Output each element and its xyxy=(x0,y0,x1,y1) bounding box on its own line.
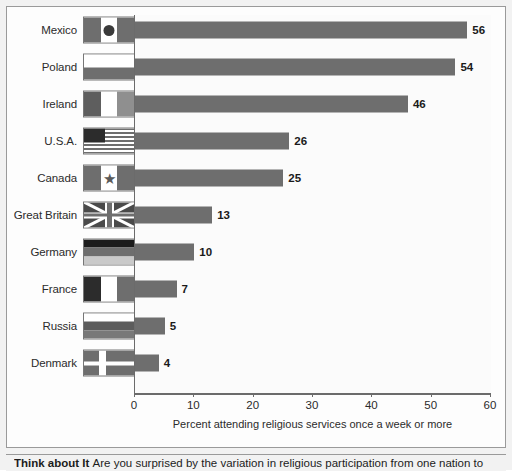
bar-russia xyxy=(135,318,165,335)
flag-poland-icon xyxy=(83,54,135,81)
bar-value-label: 7 xyxy=(182,283,188,295)
bar-usa xyxy=(135,133,289,150)
category-label: Mexico xyxy=(7,24,77,36)
mexico-emblem-icon xyxy=(104,25,115,36)
bar-value-label: 4 xyxy=(164,357,170,369)
bar-value-label: 26 xyxy=(294,135,307,147)
x-axis-tick-label: 0 xyxy=(131,399,137,411)
category-label: Ireland xyxy=(7,98,77,110)
category-label: Poland xyxy=(7,61,77,73)
flag-ireland-icon xyxy=(83,91,135,118)
bar-germany xyxy=(135,244,194,261)
chart-figure: Mexico Poland Ireland U.S.A. xyxy=(6,6,506,448)
bar-value-label: 5 xyxy=(170,320,176,332)
category-label: Germany xyxy=(7,246,77,258)
x-axis-tick-label: 10 xyxy=(187,399,200,411)
category-label: Canada xyxy=(7,172,77,184)
x-axis-tick xyxy=(134,393,135,397)
bar-value-label: 54 xyxy=(460,61,473,73)
x-axis-tick xyxy=(312,393,313,397)
x-axis-tick xyxy=(193,393,194,397)
bar-canada xyxy=(135,170,283,187)
flag-russia-icon xyxy=(83,313,135,340)
x-axis-tick xyxy=(431,393,432,397)
x-axis-tick xyxy=(490,393,491,397)
category-label: Great Britain xyxy=(7,209,77,221)
flag-mexico-icon xyxy=(83,17,135,44)
x-axis-tick-label: 20 xyxy=(246,399,259,411)
x-axis-tick-label: 40 xyxy=(365,399,378,411)
bar-poland xyxy=(135,59,455,76)
flag-denmark-icon xyxy=(83,350,135,377)
x-axis-title: Percent attending religious services onc… xyxy=(134,418,491,430)
category-label: France xyxy=(7,283,77,295)
x-axis-tick-label: 50 xyxy=(424,399,437,411)
x-axis: 0102030405060 xyxy=(134,393,491,395)
bar-denmark xyxy=(135,355,159,372)
maple-leaf-icon: ★ xyxy=(103,171,116,186)
caption-box: Think about It Are you surprised by the … xyxy=(6,454,506,471)
category-label: Russia xyxy=(7,320,77,332)
flag-usa-icon xyxy=(83,128,135,155)
bar-value-label: 10 xyxy=(199,246,212,258)
flag-canada-icon: ★ xyxy=(83,165,135,192)
x-axis-tick-label: 30 xyxy=(306,399,319,411)
bar-ireland xyxy=(135,96,408,113)
flag-germany-icon xyxy=(83,239,135,266)
caption-text: Think about It Are you surprised by the … xyxy=(14,457,500,469)
bar-great-britain xyxy=(135,207,212,224)
bar-value-label: 25 xyxy=(288,172,301,184)
bar-value-label: 13 xyxy=(217,209,230,221)
flag-france-icon xyxy=(83,276,135,303)
category-label: U.S.A. xyxy=(7,135,77,147)
x-axis-tick xyxy=(253,393,254,397)
bar-france xyxy=(135,281,177,298)
plot-area: 56 54 46 26 25 13 10 7 xyxy=(134,15,491,393)
bar-mexico xyxy=(135,22,467,39)
x-axis-tick-label: 60 xyxy=(484,399,497,411)
caption-lead: Think about It xyxy=(14,457,89,469)
x-axis-tick xyxy=(371,393,372,397)
category-label: Denmark xyxy=(7,357,77,369)
bar-value-label: 46 xyxy=(413,98,426,110)
flag-great-britain-icon xyxy=(83,202,135,229)
bar-value-label: 56 xyxy=(472,24,485,36)
caption-body: Are you surprised by the variation in re… xyxy=(93,457,484,469)
